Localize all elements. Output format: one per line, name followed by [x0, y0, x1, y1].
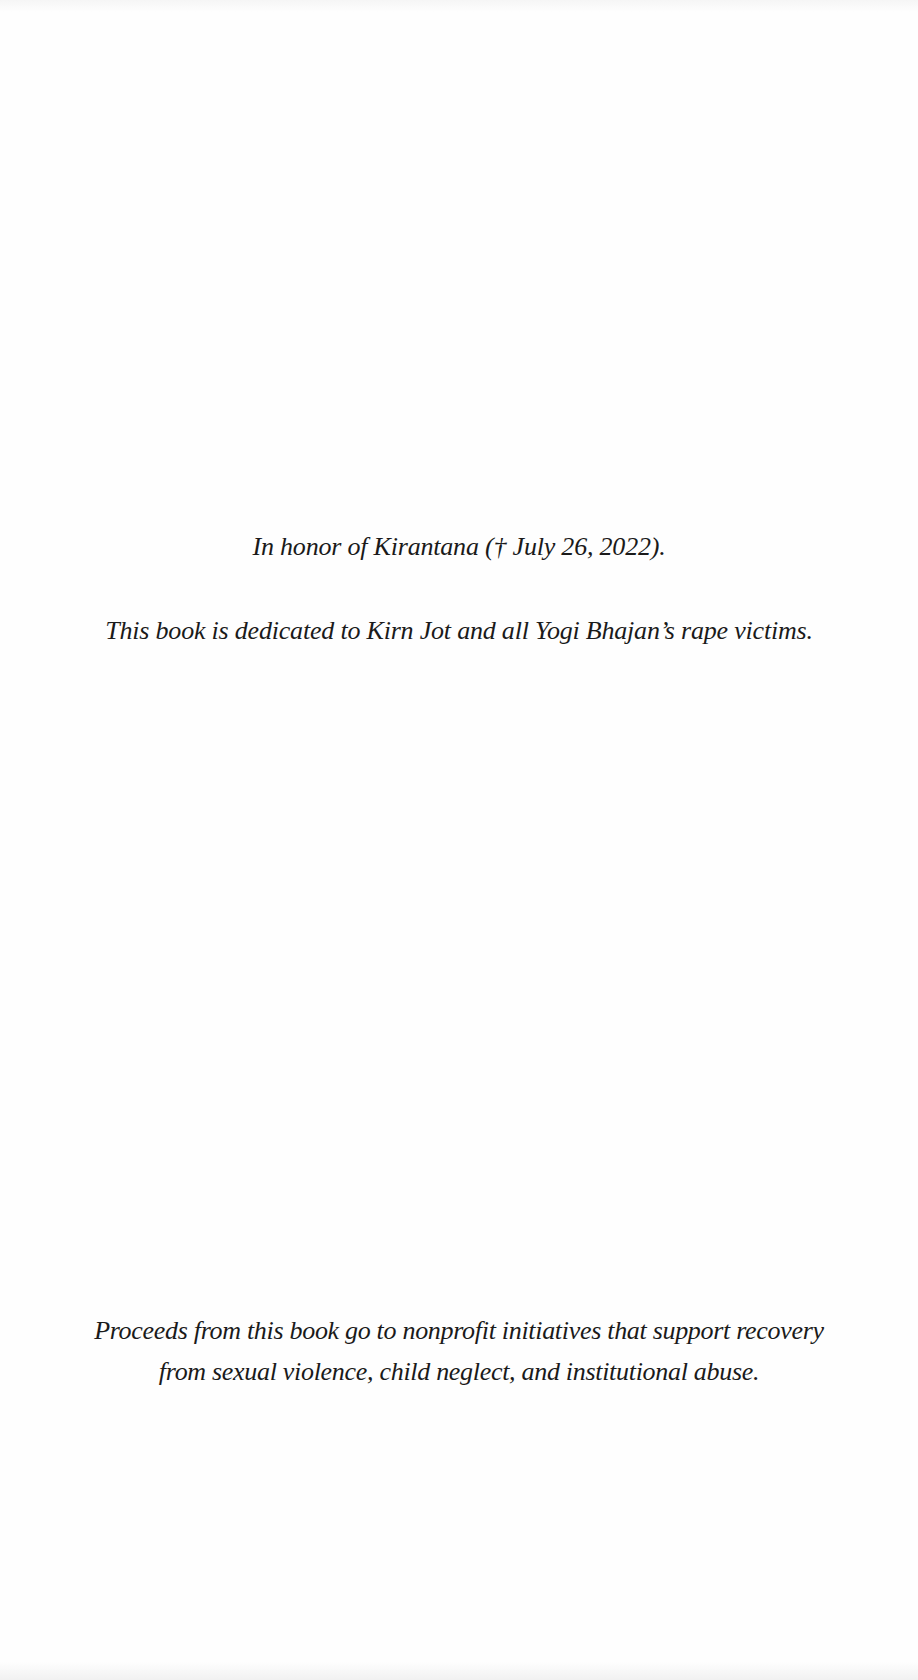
in-honor-note: In honor of Kirantana († July 26, 2022).: [0, 527, 918, 567]
proceeds-line-1: Proceeds from this book go to nonprofit …: [0, 1310, 918, 1351]
book-page: In honor of Kirantana († July 26, 2022).…: [0, 0, 918, 1680]
dedication-text: This book is dedicated to Kirn Jot and a…: [0, 611, 918, 651]
proceeds-line-2: from sexual violence, child neglect, and…: [0, 1351, 918, 1392]
proceeds-note: Proceeds from this book go to nonprofit …: [0, 1310, 918, 1392]
